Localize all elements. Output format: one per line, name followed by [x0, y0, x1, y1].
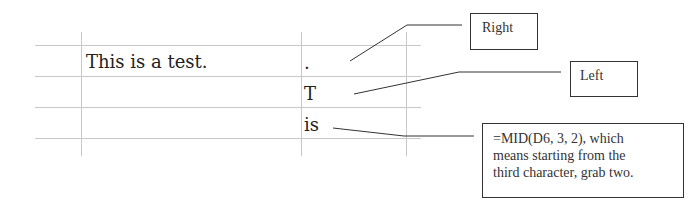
right-leader-line — [350, 25, 462, 61]
diagram-canvas: This is a test. . T is Right Left =MID(D… — [0, 0, 699, 207]
callout-mid: =MID(D6, 3, 2), which means starting fro… — [482, 123, 684, 198]
callout-left-label: Left — [580, 68, 637, 84]
callout-mid-line: means starting from the — [493, 147, 683, 164]
mid-leader-line — [333, 128, 474, 136]
callout-right-label: Right — [482, 20, 537, 36]
callout-left: Left — [570, 61, 638, 97]
left-leader-line — [354, 72, 561, 94]
callout-right: Right — [470, 13, 538, 50]
callout-mid-line: =MID(D6, 3, 2), which — [493, 130, 683, 147]
callout-mid-line: third character, grab two. — [493, 164, 683, 181]
